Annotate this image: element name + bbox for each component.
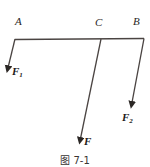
point-label-b: B xyxy=(133,16,140,27)
force-diagram-figure: A C B F1 F F2 图 7-1 xyxy=(0,0,150,167)
figure-caption: 图 7-1 xyxy=(0,155,150,167)
point-label-a: A xyxy=(15,16,22,27)
force-label-f: F xyxy=(84,136,91,147)
force-vector-f2 xyxy=(132,39,144,103)
force-label-f1-subscript: 1 xyxy=(19,71,23,79)
force-label-f1: F1 xyxy=(12,66,23,79)
point-label-c: C xyxy=(95,17,102,28)
force-label-f2-subscript: 2 xyxy=(129,117,133,125)
beam-line-ab xyxy=(15,39,144,40)
force-vector-f xyxy=(81,39,102,139)
force-vector-f1 xyxy=(8,39,15,67)
diagram-canvas xyxy=(0,0,150,167)
force-label-f2: F2 xyxy=(122,112,133,125)
